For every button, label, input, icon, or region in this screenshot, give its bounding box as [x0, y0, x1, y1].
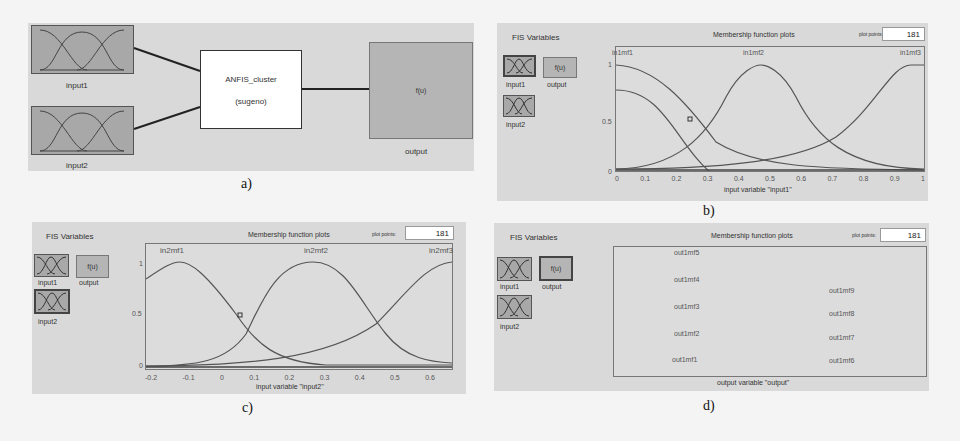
plot-title: Membership function plots: [713, 31, 795, 38]
fis-var-input1-label: input1: [38, 279, 57, 286]
xtick: 0.3: [703, 175, 713, 182]
fis-var-output[interactable]: f(u): [543, 57, 577, 78]
ytick-1: 1: [608, 61, 612, 68]
fis-var-input2[interactable]: [34, 289, 70, 314]
ytick-05: 0.5: [602, 118, 612, 125]
membership-curves-icon: [505, 57, 534, 75]
mf-label-2: in2mf2: [304, 246, 328, 255]
mf-label-right-7: out1mf7: [829, 334, 854, 341]
xtick: 0.1: [640, 175, 650, 182]
xtick: 0.4: [734, 175, 744, 182]
xtick: 0.3: [320, 374, 330, 381]
x-axis-label: output variable "output": [717, 379, 789, 386]
fis-var-input1-label: input1: [506, 81, 525, 88]
xtick: 0.5: [765, 175, 775, 182]
xtick: 0: [615, 175, 619, 182]
mf-label-right-6: out1mf6: [829, 357, 854, 364]
ytick-1: 1: [139, 260, 143, 267]
plot-points-input[interactable]: 181: [405, 226, 454, 240]
input2-block[interactable]: [31, 106, 134, 155]
membership-curves-icon: [498, 296, 531, 318]
fis-variables-title: FIS Variables: [512, 33, 559, 42]
fis-var-output[interactable]: f(u): [76, 255, 109, 278]
caption-c: c): [242, 400, 253, 416]
plot-points-label: plot points:: [859, 31, 883, 37]
mf-label-3: in1mf3: [900, 49, 921, 56]
fis-var-input2[interactable]: [497, 295, 532, 319]
mf-label-3: in2mf3: [429, 246, 453, 255]
xtick: 0.4: [355, 374, 365, 381]
xtick: 0.6: [796, 175, 806, 182]
x-axis-label: input variable "input1": [724, 186, 792, 193]
input1-block[interactable]: [31, 25, 134, 74]
system-type: (sugeno): [201, 97, 301, 106]
mf-label-1: in2mf1: [160, 246, 184, 255]
input2-label: input2: [66, 161, 88, 170]
output-symbol: f(u): [416, 87, 427, 94]
membership-curves-icon: [36, 291, 68, 312]
mf-editor-input2: FIS Variables f(u) input1 output input2 …: [32, 222, 466, 394]
fis-var-input2-label: input2: [506, 121, 525, 128]
mf-editor-output: FIS Variables f(u) input1 output input2 …: [494, 223, 929, 391]
mf-curves: [616, 47, 924, 171]
membership-curves-icon: [504, 96, 534, 116]
xtick: 0.8: [859, 175, 869, 182]
output-symbol: f(u): [551, 265, 562, 272]
fis-var-output-label: output: [542, 283, 561, 290]
x-axis-ticks: -0.2 -0.1 0 0.1 0.2 0.3 0.4 0.5 0.6: [145, 374, 435, 381]
caption-a: a): [241, 176, 252, 192]
fis-var-output[interactable]: f(u): [539, 256, 573, 281]
membership-curves-icon: [32, 26, 133, 73]
xtick: 0.2: [285, 374, 295, 381]
output-symbol: f(u): [87, 263, 98, 270]
fis-var-input1[interactable]: [497, 257, 532, 281]
fis-var-output-label: output: [79, 279, 98, 286]
ytick-05: 0.5: [132, 310, 142, 317]
xtick: -0.2: [145, 374, 157, 381]
fis-var-input2-label: input2: [38, 318, 57, 325]
ytick-0: 0: [139, 362, 143, 369]
output-block[interactable]: f(u): [369, 42, 473, 139]
xtick: 0.9: [890, 175, 900, 182]
mf-label-1: in1mf1: [612, 49, 633, 56]
fis-var-input1[interactable]: [503, 55, 536, 77]
fis-variables-title: FIS Variables: [510, 233, 557, 242]
mf-label-left-1: out1mf1: [672, 356, 697, 363]
x-axis-label: input variable "input2": [256, 383, 324, 390]
membership-curves-icon: [32, 107, 133, 154]
fis-variables-title: FIS Variables: [46, 232, 93, 241]
mf-editor-input1: FIS Variables f(u) input1 output input2 …: [497, 23, 928, 201]
membership-curves-icon: [498, 258, 531, 280]
xtick: 0.1: [249, 374, 259, 381]
output-label: output: [405, 147, 427, 156]
plot-title: Membership function plots: [711, 232, 793, 239]
xtick: 0.7: [827, 175, 837, 182]
mf-label-left-5: out1mf5: [674, 249, 699, 256]
mf-plot-input2[interactable]: in2mf1 in2mf2 in2mf3: [145, 243, 453, 370]
caption-d: d): [703, 398, 715, 414]
fis-var-input2-label: input2: [500, 323, 519, 330]
mf-label-left-4: out1mf4: [674, 276, 699, 283]
plot-points-input[interactable]: 181: [880, 228, 926, 242]
plot-title: Membership function plots: [248, 231, 330, 238]
system-name: ANFIS_cluster: [201, 75, 301, 84]
mf-plot-output[interactable]: out1mf5 out1mf4 out1mf3 out1mf2 out1mf1 …: [613, 246, 927, 377]
xtick: 0.6: [425, 374, 435, 381]
fis-editor-diagram: input1 input2 ANFIS_cluster (sugeno) f(u…: [28, 23, 474, 171]
plot-points-input[interactable]: 181: [882, 27, 925, 41]
xtick: 0: [220, 374, 224, 381]
plot-points-label: plot points:: [852, 232, 876, 238]
xtick: 0.2: [672, 175, 682, 182]
membership-curves-icon: [35, 255, 68, 276]
fis-var-input1[interactable]: [34, 254, 69, 277]
x-axis-ticks: 0 0.1 0.2 0.3 0.4 0.5 0.6 0.7 0.8 0.9 1: [615, 175, 925, 182]
fis-var-input2[interactable]: [503, 95, 535, 117]
mf-label-left-2: out1mf2: [674, 330, 699, 337]
fis-var-input1-label: input1: [500, 283, 519, 290]
mf-plot-input1[interactable]: in1mf1 in1mf2 in1mf3: [615, 46, 925, 172]
system-block[interactable]: ANFIS_cluster (sugeno): [200, 50, 302, 129]
fis-var-output-label: output: [547, 81, 566, 88]
mf-label-right-9: out1mf9: [829, 287, 854, 294]
input1-label: input1: [66, 81, 88, 90]
mf-label-left-3: out1mf3: [674, 303, 699, 310]
